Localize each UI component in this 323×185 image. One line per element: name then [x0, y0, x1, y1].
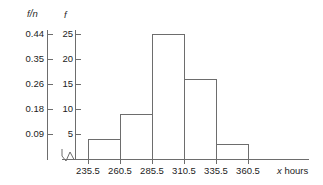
x-axis-tick-label: 260.5 — [103, 165, 137, 176]
relative-frequency-axis-tick — [48, 109, 53, 110]
x-axis-tick — [152, 159, 153, 164]
relative-frequency-axis-tick-label: 0.44 — [16, 28, 44, 39]
x-axis-variable: x — [277, 165, 282, 176]
frequency-axis-tick-label: 20 — [53, 53, 73, 64]
x-axis-tick — [120, 159, 121, 164]
frequency-axis-tick — [76, 134, 81, 135]
x-axis-tick-label: 310.5 — [167, 165, 201, 176]
frequency-axis-tick-label: 10 — [53, 103, 73, 114]
x-axis-tick-label: 235.5 — [71, 165, 105, 176]
frequency-axis-tick — [76, 59, 81, 60]
histogram-bar — [88, 139, 121, 160]
relative-frequency-axis-tick-label: 0.18 — [16, 103, 44, 114]
x-axis-tick-label: 360.5 — [231, 165, 265, 176]
plot-area: 5101520250.090.180.260.350.44235.5260.52… — [0, 0, 323, 185]
x-axis-tick — [248, 159, 249, 164]
x-axis-tick-label: 285.5 — [135, 165, 169, 176]
histogram-bar — [184, 79, 217, 160]
relative-frequency-axis-tick — [48, 34, 53, 35]
x-axis-tick — [88, 159, 89, 164]
histogram-bar — [120, 114, 153, 160]
frequency-axis-tick-label: 5 — [53, 128, 73, 139]
relative-frequency-axis-tick-label: 0.26 — [16, 78, 44, 89]
relative-frequency-axis-tick-label: 0.09 — [16, 128, 44, 139]
x-axis-tick-label: 335.5 — [199, 165, 233, 176]
frequency-axis-tick — [76, 84, 81, 85]
relative-frequency-axis-tick — [48, 134, 53, 135]
frequency-axis-tick — [76, 109, 81, 110]
relative-frequency-axis-tick — [48, 84, 53, 85]
x-axis-units: hours — [284, 165, 308, 176]
x-axis-label: x hours — [277, 165, 308, 176]
histogram-figure: f/n f 5101520250.090.180.260.350.44235.5… — [0, 0, 323, 185]
x-axis-tick — [184, 159, 185, 164]
relative-frequency-axis-tick-label: 0.35 — [16, 53, 44, 64]
histogram-bar — [216, 144, 249, 160]
x-axis-tick — [216, 159, 217, 164]
frequency-axis-tick-label: 15 — [53, 78, 73, 89]
histogram-bar — [152, 34, 185, 160]
frequency-axis-tick-label: 25 — [53, 28, 73, 39]
relative-frequency-axis-tick — [48, 59, 53, 60]
frequency-axis-tick — [76, 34, 81, 35]
